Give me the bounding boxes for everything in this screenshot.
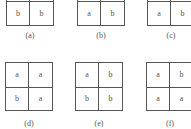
cell-b-1-1: b — [101, 1, 124, 26]
cell-d-1-0: b — [6, 87, 29, 111]
cell-f-0-1: b — [170, 63, 191, 87]
label-a: (a) — [6, 31, 54, 40]
label-c: (c) — [147, 31, 191, 40]
cell-f-1-0: a — [147, 87, 170, 111]
cell-c-1-1: b — [171, 1, 191, 26]
cell-e-0-0: a — [76, 63, 99, 87]
cell-d-0-0: a — [6, 63, 29, 87]
label-b: (b) — [77, 31, 125, 40]
cell-d-1-1: a — [29, 87, 52, 111]
grid-f: a b a a — [146, 62, 191, 111]
label-f: (f) — [146, 119, 191, 128]
cell-d-0-1: a — [29, 63, 52, 87]
grid-d: a a b a — [5, 62, 53, 111]
label-e: (e) — [75, 119, 123, 128]
cell-f-1-1: a — [170, 87, 191, 111]
label-d: (d) — [5, 119, 53, 128]
grid-e: a b b b — [75, 62, 123, 111]
grid-b: a b — [77, 0, 125, 26]
cell-a-1-1: b — [30, 1, 53, 26]
cell-e-1-0: b — [76, 87, 99, 111]
cell-b-1-0: a — [78, 1, 101, 26]
grid-a: b b — [6, 0, 54, 26]
cell-a-1-0: b — [7, 1, 30, 26]
grid-c: a b — [147, 0, 191, 26]
cell-e-1-1: b — [99, 87, 122, 111]
cell-e-0-1: b — [99, 63, 122, 87]
cell-c-1-0: a — [148, 1, 171, 26]
cell-f-0-0: a — [147, 63, 170, 87]
